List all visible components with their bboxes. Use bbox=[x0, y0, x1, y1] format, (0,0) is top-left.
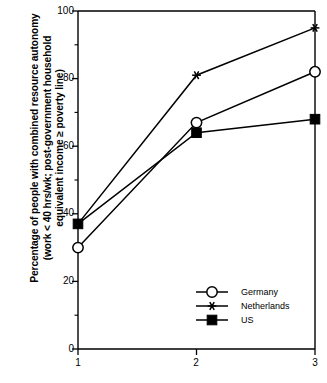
legend-sample-germany bbox=[196, 287, 228, 297]
data-point-us-3 bbox=[310, 114, 320, 124]
legend-sample-netherlands bbox=[196, 302, 228, 310]
plot-area bbox=[0, 0, 327, 383]
chart-figure: Percentage of people with combined resou… bbox=[0, 0, 327, 383]
data-point-germany-2 bbox=[191, 117, 201, 127]
data-point-us-2 bbox=[192, 128, 202, 138]
data-point-us-1 bbox=[73, 219, 83, 229]
legend-marker-filled-square bbox=[207, 315, 217, 325]
series-markers-germany bbox=[73, 67, 320, 253]
legend bbox=[196, 287, 228, 325]
series-markers-us bbox=[73, 114, 320, 228]
series-line-germany bbox=[78, 72, 315, 248]
legend-label-germany: Germany bbox=[241, 288, 278, 297]
legend-sample-us bbox=[196, 315, 228, 325]
x-major-ticks bbox=[78, 349, 315, 355]
data-point-germany-1 bbox=[73, 242, 83, 252]
data-point-germany-3 bbox=[310, 67, 320, 77]
legend-marker-open-circle bbox=[207, 287, 217, 297]
legend-marker-star bbox=[208, 302, 217, 310]
legend-label-netherlands: Netherlands bbox=[241, 302, 290, 311]
legend-label-us: US bbox=[241, 316, 254, 325]
data-point-netherlands-2 bbox=[192, 71, 201, 79]
